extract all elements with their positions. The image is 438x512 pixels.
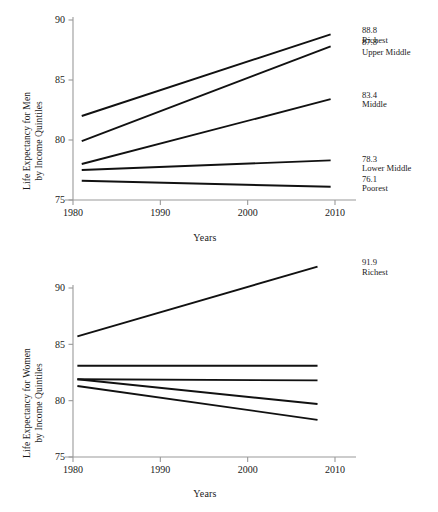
y-axis-title-women-line2: by Income Quintiles (34, 348, 46, 458)
y-tick-label: 80 (55, 395, 65, 406)
series-end-label-lower-middle: Lower Middle (362, 163, 412, 173)
series-end-label-upper-middle: Upper Middle (362, 47, 411, 57)
x-tick-label: 1980 (63, 207, 83, 218)
x-tick-label: 2010 (325, 207, 345, 218)
y-tick-label: 75 (55, 451, 65, 462)
y-axis-title-women-line1: Life Expectancy for Women (22, 348, 34, 458)
y-tick-label: 90 (55, 14, 65, 25)
series-line-richest (77, 267, 317, 337)
y-tick-label: 85 (55, 339, 65, 350)
x-tick-label: 1990 (150, 464, 170, 475)
y-tick-label: 80 (55, 134, 65, 145)
series-end-label-richest: Richest (362, 267, 388, 277)
series-line-richest (82, 34, 331, 116)
y-axis-title-women: Life Expectancy for Women by Income Quin… (22, 348, 45, 458)
y-tick-label: 90 (55, 282, 65, 293)
x-tick-label: 2000 (238, 464, 258, 475)
y-axis-title-men-line2: by Income Quintiles (34, 92, 46, 190)
plot-area-women: 75808590198019902000201091.9Richest83.1U… (0, 256, 438, 512)
series-line-upper-middle (82, 46, 331, 141)
y-axis-title-men: Life Expectancy for Men by Income Quinti… (22, 92, 45, 190)
chart-women: 75808590198019902000201091.9Richest83.1U… (0, 256, 438, 512)
plot-area-men: 75808590198019902000201088.8Richest87.8U… (0, 0, 438, 256)
x-tick-label: 2000 (238, 207, 258, 218)
y-tick-label: 75 (55, 194, 65, 205)
series-end-label-middle: Middle (362, 99, 387, 109)
x-axis-title-men: Years (150, 232, 260, 243)
x-tick-label: 1980 (63, 464, 83, 475)
series-line-middle (77, 379, 317, 380)
y-axis-title-men-line1: Life Expectancy for Men (22, 92, 34, 190)
x-tick-label: 1990 (150, 207, 170, 218)
series-line-poorest (82, 181, 331, 187)
chart-men: 75808590198019902000201088.8Richest87.8U… (0, 0, 438, 256)
series-line-middle (82, 99, 331, 164)
x-tick-label: 2010 (325, 464, 345, 475)
y-tick-label: 85 (55, 74, 65, 85)
series-end-label-poorest: Poorest (362, 183, 388, 193)
x-axis-title-women: Years (150, 488, 260, 499)
series-line-lower-middle (82, 160, 331, 170)
